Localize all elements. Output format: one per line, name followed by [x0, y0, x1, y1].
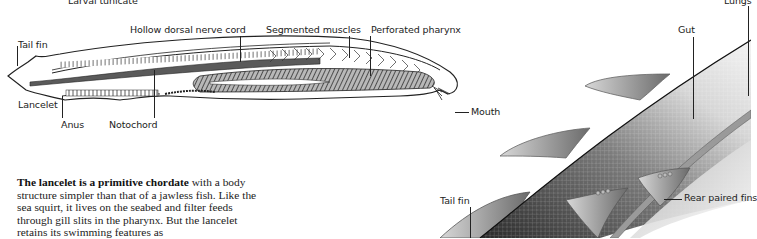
rear-paired-fins-leader: [664, 199, 682, 200]
caption-lead: The lancelet is a primitive chordate: [17, 176, 189, 188]
fish-tail-fin-label: Tail fin: [440, 195, 470, 206]
lungs-leader: [748, 6, 749, 96]
gut-label: Gut: [678, 24, 695, 35]
rear-paired-fins-label: Rear paired fins: [684, 192, 757, 203]
gut-leader: [693, 37, 694, 119]
caption-paragraph: The lancelet is a primitive chordate wit…: [17, 176, 269, 239]
fish-tail-fin-leader: [470, 207, 471, 238]
